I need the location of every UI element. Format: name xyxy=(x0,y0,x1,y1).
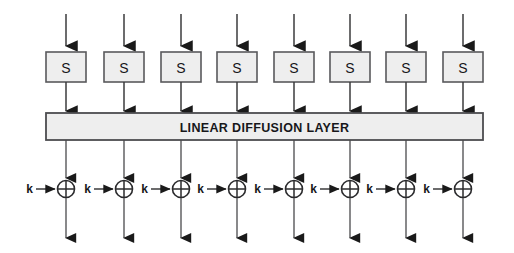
key-label: k xyxy=(423,182,430,196)
key-label: k xyxy=(141,182,148,196)
key-addition-layer: k k k xyxy=(26,181,471,198)
sbox-lane-7[interactable]: S xyxy=(386,52,426,82)
key-label: k xyxy=(254,182,261,196)
sbox-label: S xyxy=(289,60,298,76)
input-wires-group xyxy=(66,14,463,46)
sbox-lane-6[interactable]: S xyxy=(330,52,370,82)
key-label: k xyxy=(197,182,204,196)
sbox-label: S xyxy=(458,60,467,76)
sbox-label: S xyxy=(232,60,241,76)
sbox-label: S xyxy=(61,60,70,76)
key-xor-lane-2[interactable]: k xyxy=(84,181,132,198)
key-label: k xyxy=(84,182,91,196)
sbox-to-diffusion-wires-group xyxy=(66,82,463,111)
key-label: k xyxy=(26,182,33,196)
key-xor-lane-6[interactable]: k xyxy=(310,181,358,198)
key-label: k xyxy=(310,182,317,196)
key-label: k xyxy=(366,182,373,196)
key-xor-lane-3[interactable]: k xyxy=(141,181,189,198)
substitution-layer: S S S S S S S xyxy=(46,52,483,82)
sbox-lane-5[interactable]: S xyxy=(274,52,314,82)
key-xor-lane-1[interactable]: k xyxy=(26,181,74,198)
key-xor-lane-7[interactable]: k xyxy=(366,181,414,198)
sbox-label: S xyxy=(119,60,128,76)
sbox-lane-4[interactable]: S xyxy=(217,52,257,82)
sbox-lane-1[interactable]: S xyxy=(46,52,86,82)
diffusion-layer-label: LINEAR DIFFUSION LAYER xyxy=(180,121,350,135)
linear-diffusion-layer[interactable]: LINEAR DIFFUSION LAYER xyxy=(46,113,483,140)
diagram-canvas: S S S S S S S xyxy=(0,0,514,253)
key-xor-lane-5[interactable]: k xyxy=(254,181,302,198)
sbox-label: S xyxy=(401,60,410,76)
key-xor-lane-4[interactable]: k xyxy=(197,181,245,198)
output-wires-group xyxy=(66,198,463,238)
sbox-label: S xyxy=(345,60,354,76)
key-xor-lane-8[interactable]: k xyxy=(423,181,471,198)
sbox-lane-8[interactable]: S xyxy=(443,52,483,82)
spn-round-diagram: S S S S S S S xyxy=(0,0,514,253)
diffusion-to-xor-wires-group xyxy=(66,140,463,178)
sbox-lane-3[interactable]: S xyxy=(161,52,201,82)
sbox-lane-2[interactable]: S xyxy=(104,52,144,82)
sbox-label: S xyxy=(176,60,185,76)
